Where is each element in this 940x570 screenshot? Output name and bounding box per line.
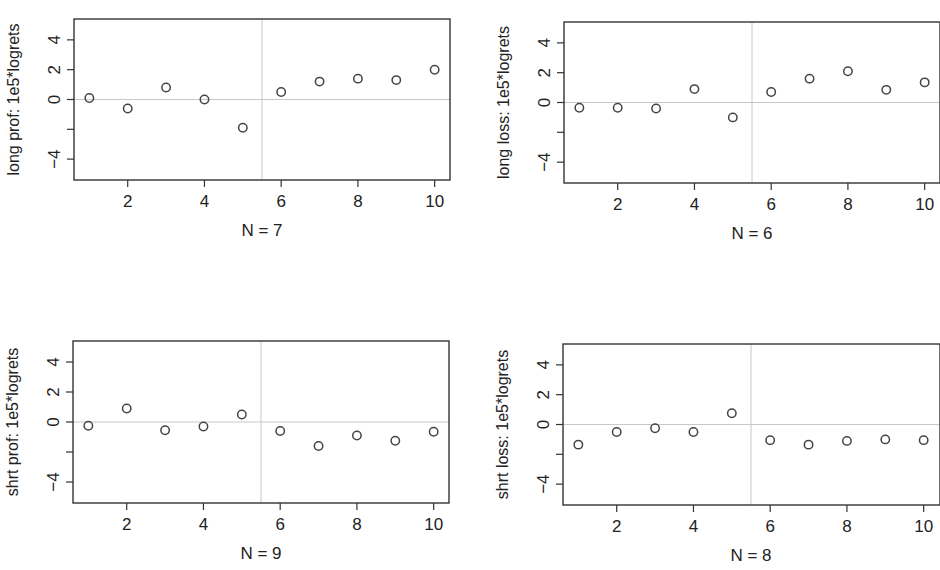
data-point (276, 427, 284, 435)
x-tick-label: 8 (353, 192, 362, 211)
panel-long-prof: −4024246810N = 7long prof: 1e5*logrets (5, 19, 450, 240)
x-axis-label: N = 6 (731, 224, 772, 243)
figure: −4024246810N = 7long prof: 1e5*logrets −… (0, 0, 940, 570)
y-tick-label: 2 (45, 65, 64, 74)
y-tick-label: 2 (535, 68, 554, 77)
data-point (575, 104, 583, 112)
data-point (729, 113, 737, 121)
y-tick-label: 4 (44, 357, 63, 366)
x-tick-label: 6 (276, 192, 285, 211)
data-point (651, 424, 659, 432)
data-point (391, 437, 399, 445)
y-axis-label: shrt loss: 1e5*logrets (494, 350, 511, 499)
data-point (314, 442, 322, 450)
data-point (392, 76, 400, 84)
x-tick-label: 10 (425, 192, 444, 211)
data-point (239, 124, 247, 132)
data-point (614, 104, 622, 112)
y-axis-label: long prof: 1e5*logrets (5, 23, 22, 175)
data-point (652, 104, 660, 112)
x-axis-label: N = 9 (240, 544, 281, 563)
data-point (354, 74, 362, 82)
x-tick-label: 4 (200, 192, 209, 211)
y-tick-label: 2 (534, 390, 553, 399)
data-point (123, 404, 131, 412)
y-tick-label: 0 (535, 98, 554, 107)
data-point (277, 88, 285, 96)
panel-shrt-prof: −4024246810N = 9shrt prof: 1e5*logrets (4, 341, 449, 563)
x-tick-label: 4 (199, 515, 208, 534)
y-tick-label: 4 (534, 360, 553, 369)
data-point (315, 77, 323, 85)
data-point (161, 426, 169, 434)
x-tick-label: 8 (352, 515, 361, 534)
y-tick-label: 4 (535, 38, 554, 47)
data-point (84, 422, 92, 430)
y-tick-label: −4 (534, 474, 553, 493)
data-point (728, 409, 736, 417)
x-tick-label: 10 (915, 195, 934, 214)
x-tick-label: 10 (424, 515, 443, 534)
data-point (162, 83, 170, 91)
x-tick-label: 2 (612, 517, 621, 536)
y-tick-label: 2 (44, 387, 63, 396)
data-point (429, 428, 437, 436)
data-point (690, 85, 698, 93)
x-tick-label: 2 (123, 192, 132, 211)
x-tick-label: 4 (690, 195, 699, 214)
data-point (805, 74, 813, 82)
x-tick-label: 8 (843, 195, 852, 214)
y-tick-label: 4 (45, 35, 64, 44)
x-tick-label: 6 (275, 515, 284, 534)
y-tick-label: −4 (45, 149, 64, 168)
y-tick-label: −4 (535, 152, 554, 171)
panel-shrt-loss: −4024246810N = 8shrt loss: 1e5*logrets (494, 344, 940, 565)
data-point (767, 88, 775, 96)
x-tick-label: 2 (613, 195, 622, 214)
x-tick-label: 6 (766, 195, 775, 214)
x-axis-label: N = 7 (241, 221, 282, 240)
x-axis-label: N = 8 (730, 546, 771, 565)
y-tick-label: −4 (44, 472, 63, 491)
x-tick-label: 8 (842, 517, 851, 536)
x-tick-label: 6 (765, 517, 774, 536)
data-point (881, 435, 889, 443)
data-point (353, 431, 361, 439)
data-point (844, 67, 852, 75)
data-point (919, 436, 927, 444)
data-point (882, 86, 890, 94)
data-point (124, 104, 132, 112)
data-point (804, 440, 812, 448)
data-point (613, 428, 621, 436)
data-point (766, 436, 774, 444)
x-tick-label: 4 (689, 517, 698, 536)
x-tick-label: 10 (914, 517, 933, 536)
data-point (199, 422, 207, 430)
data-point (238, 410, 246, 418)
data-point (843, 437, 851, 445)
y-axis-label: shrt prof: 1e5*logrets (4, 348, 21, 497)
y-axis-label: long loss: 1e5*logrets (495, 26, 512, 179)
y-tick-label: 0 (534, 420, 553, 429)
data-point (689, 428, 697, 436)
y-tick-label: 0 (45, 95, 64, 104)
panel-long-loss: −4024246810N = 6long loss: 1e5*logrets (495, 22, 940, 243)
data-point (430, 65, 438, 73)
x-tick-label: 2 (122, 515, 131, 534)
data-point (920, 78, 928, 86)
y-tick-label: 0 (44, 417, 63, 426)
data-point (574, 440, 582, 448)
data-point (85, 94, 93, 102)
